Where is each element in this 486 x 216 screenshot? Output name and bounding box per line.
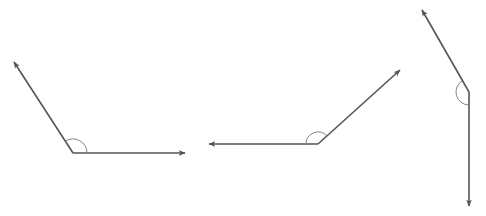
angle-3 <box>422 10 469 206</box>
angles-diagram <box>0 0 486 216</box>
ray-a-arrow <box>422 10 469 92</box>
ray-a-arrow <box>14 62 73 153</box>
angle-arc-icon <box>456 81 469 105</box>
ray-b-arrow <box>318 70 400 144</box>
angle-1 <box>14 62 185 153</box>
angle-2 <box>209 70 400 144</box>
